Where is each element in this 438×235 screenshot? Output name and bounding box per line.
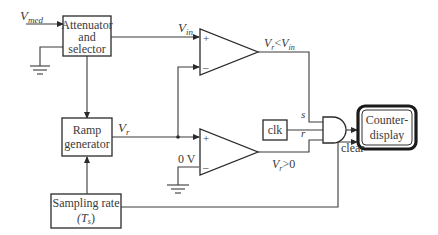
clear-label: clear xyxy=(341,141,364,155)
vr-label: Vr xyxy=(118,120,130,137)
comp2-minus: – xyxy=(202,161,209,173)
ground-icon xyxy=(30,66,50,74)
s-label: s xyxy=(301,108,305,120)
ramp-label-1: Ramp xyxy=(73,123,102,137)
block-diagram: Vmed Attenuator and selector Vin + – Ram… xyxy=(0,0,438,235)
ground-icon xyxy=(167,185,189,193)
comp2-output-label: Vr>0 xyxy=(272,157,295,173)
and-gate xyxy=(323,117,346,143)
clk-label: clk xyxy=(268,123,283,137)
zero-volt-label: 0 V xyxy=(178,152,196,166)
counter-label-1: Counter- xyxy=(366,113,408,127)
comp1-minus: – xyxy=(202,61,209,73)
comp2-output-wire xyxy=(258,140,323,152)
vin-label: Vin xyxy=(178,20,193,37)
ramp-label-2: generator xyxy=(64,137,109,151)
comp1-plus: + xyxy=(203,32,209,44)
r-label: r xyxy=(301,127,306,139)
vr-to-comp1-wire xyxy=(178,67,199,137)
zero-volt-wire xyxy=(178,167,199,185)
counter-label-2: display xyxy=(370,128,405,142)
vmed-label: Vmed xyxy=(20,8,43,25)
sampling-label-2: (Ts) xyxy=(77,211,95,226)
attenuator-ground-wire xyxy=(40,47,63,66)
comp2-plus: + xyxy=(203,132,209,144)
attenuator-label-3: selector xyxy=(68,42,105,56)
sampling-label-1: Sampling rate xyxy=(53,196,120,210)
comp1-output-wire xyxy=(258,52,323,122)
comp1-output-label: Vr<Vin xyxy=(264,36,295,52)
